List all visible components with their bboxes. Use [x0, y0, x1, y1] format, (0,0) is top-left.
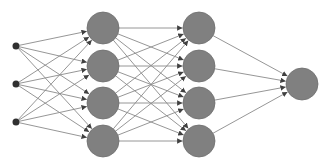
hidden-1-node-1: [87, 12, 119, 44]
output-node-1: [286, 68, 318, 100]
input-node-1: [13, 43, 20, 50]
hidden-1-node-4: [87, 125, 119, 157]
edge-hidden-2-3-to-output-1: [215, 87, 286, 100]
edge-input-2-to-hidden-1-2: [19, 69, 86, 83]
neural-network-diagram: [0, 0, 330, 166]
input-node-3: [13, 119, 20, 126]
hidden-1-node-3: [87, 87, 119, 119]
edge-input-2-to-hidden-1-1: [19, 37, 89, 82]
hidden-2-node-4: [183, 125, 215, 157]
edge-hidden-2-2-to-output-1: [215, 69, 286, 81]
connection-edges: [18, 28, 287, 141]
hidden-2-node-3: [183, 87, 215, 119]
hidden-2-node-1: [183, 12, 215, 44]
input-node-2: [13, 81, 20, 88]
network-nodes: [13, 12, 319, 157]
hidden-1-node-2: [87, 50, 119, 82]
edge-input-3-to-hidden-1-4: [19, 123, 86, 138]
edge-input-1-to-hidden-1-1: [19, 31, 86, 45]
hidden-2-node-2: [183, 50, 215, 82]
